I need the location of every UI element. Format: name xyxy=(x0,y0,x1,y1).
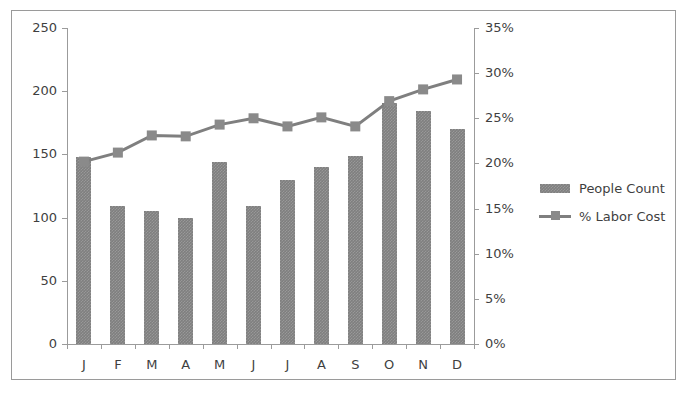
x-tick xyxy=(304,344,305,349)
left-tick-label: 100 xyxy=(32,211,57,224)
x-axis-label: J xyxy=(272,358,302,371)
right-tick xyxy=(474,163,479,164)
x-tick xyxy=(67,344,68,349)
right-tick xyxy=(474,73,479,74)
right-tick xyxy=(474,28,479,29)
x-tick xyxy=(135,344,136,349)
legend-label-people-count: People Count xyxy=(579,182,665,195)
right-tick xyxy=(474,299,479,300)
line-marker xyxy=(147,130,157,140)
right-tick-label: 30% xyxy=(485,66,514,79)
right-tick-label: 25% xyxy=(485,111,514,124)
x-axis-label: F xyxy=(103,358,133,371)
x-tick xyxy=(474,344,475,349)
x-tick xyxy=(271,344,272,349)
left-tick-label: 0 xyxy=(49,337,57,350)
right-tick xyxy=(474,209,479,210)
left-tick-label: 50 xyxy=(40,274,57,287)
left-tick-label: 150 xyxy=(32,147,57,160)
bar-swatch-icon xyxy=(538,179,572,197)
line-marker xyxy=(215,120,225,130)
line-marker xyxy=(384,96,394,106)
x-axis-label: M xyxy=(137,358,167,371)
legend-item-labor-cost: % Labor Cost xyxy=(538,202,673,230)
right-tick xyxy=(474,254,479,255)
x-axis-label: J xyxy=(239,358,269,371)
x-axis-label: D xyxy=(442,358,472,371)
left-tick-label: 200 xyxy=(32,84,57,97)
right-tick xyxy=(474,118,479,119)
x-tick xyxy=(440,344,441,349)
x-tick xyxy=(406,344,407,349)
plot-area: JFMAMJJASOND 0501001502002500%5%10%15%20… xyxy=(67,28,474,344)
line-marker xyxy=(249,113,259,123)
line-marker xyxy=(181,131,191,141)
chart-frame: JFMAMJJASOND 0501001502002500%5%10%15%20… xyxy=(11,10,676,380)
chart-legend: People Count % Labor Cost xyxy=(538,174,673,230)
line-marker xyxy=(350,121,360,131)
right-tick-label: 5% xyxy=(485,292,506,305)
x-axis-label: S xyxy=(340,358,370,371)
line-marker xyxy=(79,157,89,167)
legend-item-people-count: People Count xyxy=(538,174,673,202)
left-tick-label: 250 xyxy=(32,21,57,34)
right-axis-line xyxy=(474,28,475,344)
x-tick xyxy=(372,344,373,349)
right-tick-label: 35% xyxy=(485,21,514,34)
line-marker xyxy=(113,148,123,158)
x-axis-label: M xyxy=(205,358,235,371)
x-tick xyxy=(169,344,170,349)
legend-label-labor-cost: % Labor Cost xyxy=(579,210,665,223)
line-marker xyxy=(316,112,326,122)
x-tick xyxy=(338,344,339,349)
line-marker xyxy=(452,74,462,84)
x-tick xyxy=(237,344,238,349)
right-tick-label: 0% xyxy=(485,337,506,350)
line-marker xyxy=(418,84,428,94)
x-axis-label: A xyxy=(306,358,336,371)
x-tick xyxy=(101,344,102,349)
line-series-labor-cost xyxy=(67,28,474,344)
line-swatch-icon xyxy=(538,207,572,225)
x-axis-label: J xyxy=(69,358,99,371)
right-tick-label: 20% xyxy=(485,156,514,169)
x-tick xyxy=(203,344,204,349)
x-axis-label: A xyxy=(171,358,201,371)
x-axis-label: O xyxy=(374,358,404,371)
right-tick-label: 10% xyxy=(485,247,514,260)
right-tick-label: 15% xyxy=(485,202,514,215)
x-axis-label: N xyxy=(408,358,438,371)
line-marker xyxy=(282,121,292,131)
